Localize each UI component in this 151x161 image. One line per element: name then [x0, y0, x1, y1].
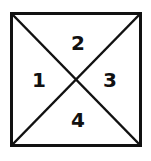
region-label-3: 3 [103, 68, 117, 92]
region-label-2: 2 [71, 31, 85, 55]
square-diagram: 1 2 3 4 [0, 0, 151, 161]
region-label-1: 1 [32, 68, 46, 92]
region-label-4: 4 [71, 108, 85, 132]
